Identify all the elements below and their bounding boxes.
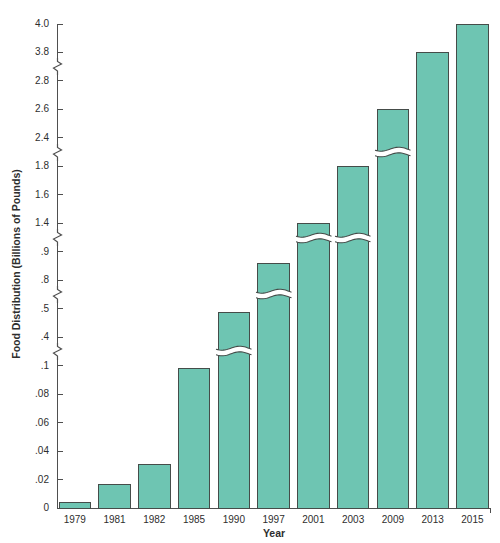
bar-scale-break-mark (375, 144, 411, 160)
x-axis-tick-label: 2015 (451, 514, 494, 526)
y-axis-tick (58, 422, 63, 423)
y-axis-tick-label: 1.6 (0, 189, 49, 201)
y-axis-tick-label: .02 (0, 474, 49, 486)
y-axis-tick-label: .5 (0, 303, 49, 315)
bar (178, 368, 211, 509)
y-axis-tick (58, 337, 63, 338)
bar (337, 166, 370, 509)
x-axis-title: Year (57, 527, 491, 539)
x-axis-tick-label: 1990 (213, 514, 256, 526)
bar-scale-break-mark (256, 286, 292, 302)
y-axis-tick (58, 80, 63, 81)
bar-scale-break-mark (296, 230, 332, 246)
bar (218, 312, 251, 509)
bar (98, 484, 131, 509)
x-axis-tick-label: 2003 (332, 514, 375, 526)
x-axis-tick-label: 1997 (252, 514, 295, 526)
y-axis-tick-label: .8 (0, 274, 49, 286)
y-axis-tick (58, 308, 63, 309)
y-axis-break-mark (51, 144, 64, 161)
bar (416, 52, 449, 509)
y-axis-tick (58, 109, 63, 110)
bar-scale-break-mark (216, 343, 252, 359)
x-axis-tick-label: 1982 (133, 514, 176, 526)
y-axis-tick (58, 394, 63, 395)
bar (456, 24, 489, 509)
x-axis-end-tick (490, 508, 491, 513)
y-axis-tick-label: .9 (0, 246, 49, 258)
bar (138, 464, 171, 509)
y-axis-tick-label: .04 (0, 445, 49, 457)
bar (377, 109, 410, 509)
y-axis-tick-label: 2.6 (0, 103, 49, 115)
food-distribution-bar-chart: Food Distribution (Billions of Pounds) 4… (0, 0, 500, 543)
y-axis-tick-label: 3.8 (0, 46, 49, 58)
y-axis-tick-label: .06 (0, 417, 49, 429)
y-axis-tick (58, 365, 63, 366)
y-axis-tick-label: 2.4 (0, 132, 49, 144)
y-axis-line (57, 24, 58, 509)
y-axis-tick (58, 280, 63, 281)
bar-scale-break-mark (335, 230, 371, 246)
y-axis-tick (58, 166, 63, 167)
y-axis-tick (58, 52, 63, 53)
y-axis-break-mark (51, 58, 64, 75)
y-axis-break-mark (51, 343, 64, 360)
x-axis-tick-label: 1985 (173, 514, 216, 526)
y-axis-tick (58, 451, 63, 452)
y-axis-tick (58, 24, 63, 25)
x-axis-tick-label: 1981 (93, 514, 136, 526)
y-axis-tick-label: .1 (0, 360, 49, 372)
y-axis-tick-label: 1.4 (0, 217, 49, 229)
y-axis-tick-label: .4 (0, 331, 49, 343)
x-axis-tick-label: 2009 (372, 514, 415, 526)
x-axis-tick-label: 2001 (292, 514, 335, 526)
y-axis-tick-label: 4.0 (0, 18, 49, 30)
y-axis-break-mark (51, 229, 64, 246)
y-axis-tick (58, 251, 63, 252)
x-axis-tick-label: 1979 (54, 514, 97, 526)
y-axis-tick (58, 194, 63, 195)
y-axis-tick (58, 223, 63, 224)
y-axis-tick-label: .08 (0, 388, 49, 400)
bar (297, 223, 330, 509)
y-axis-break-mark (51, 286, 64, 303)
y-axis-tick (58, 479, 63, 480)
y-axis-tick-label: 0 (0, 502, 49, 514)
bar (59, 502, 92, 509)
y-axis-tick-label: 1.8 (0, 160, 49, 172)
y-axis-tick (58, 137, 63, 138)
y-axis-tick-label: 2.8 (0, 75, 49, 87)
x-axis-tick-label: 2013 (411, 514, 454, 526)
